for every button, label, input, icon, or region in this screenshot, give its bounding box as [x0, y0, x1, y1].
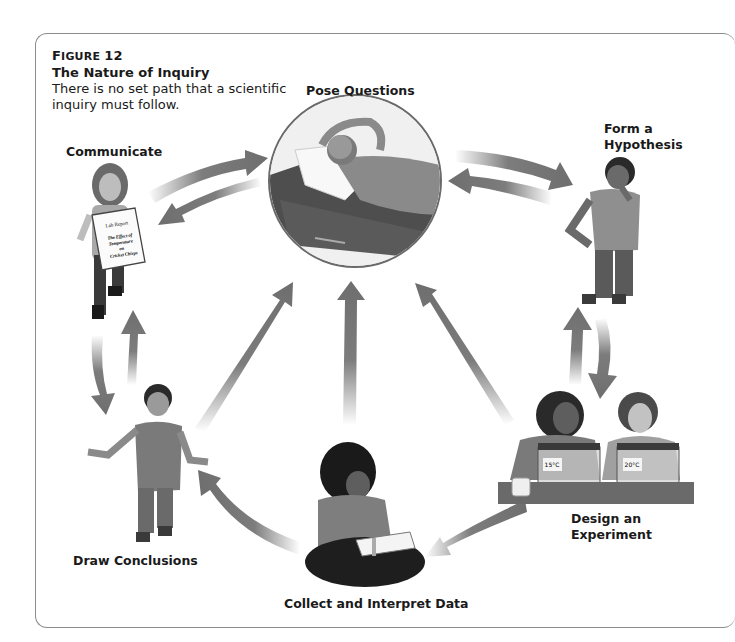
arrow-hypothesis-to-design [588, 318, 617, 399]
stage-label-form-hypothesis: Form a Hypothesis [604, 121, 683, 153]
pose-questions-photo [265, 95, 445, 275]
stage-label-pose-questions: Pose Questions [306, 83, 415, 99]
collect-data-photo [305, 442, 425, 587]
form-hypothesis-photo [570, 157, 640, 304]
communicate-photo: Lab Report The Effect of Temperature on … [80, 163, 145, 319]
arrow-conclusions-to-communicate [121, 310, 146, 385]
arrow-conclusions-to-pose [195, 282, 293, 432]
arrow-design-to-data [425, 500, 527, 557]
arrow-data-to-conclusions [198, 470, 300, 555]
stage-label-collect-data: Collect and Interpret Data [284, 596, 469, 612]
stage-label-draw-conclusions: Draw Conclusions [73, 553, 198, 569]
stage-label-communicate: Communicate [66, 144, 162, 160]
terrarium-label-1: 15°C [545, 461, 560, 468]
design-experiment-photo: 15°C 20°C [498, 391, 694, 504]
arrow-design-to-hypothesis [563, 307, 592, 385]
terrarium-label-2: 20°C [625, 461, 640, 468]
arrow-data-to-pose [337, 281, 365, 425]
arrow-communicate-to-conclusions [91, 335, 115, 415]
arrow-design-to-pose [415, 283, 514, 425]
stage-label-design-experiment: Design an Experiment [571, 511, 652, 543]
